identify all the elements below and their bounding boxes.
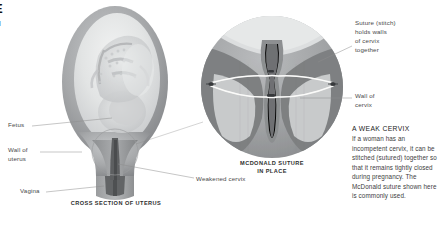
illustration-page: E M bbox=[0, 0, 443, 226]
label-wall-of-cervix: Wall of cervix bbox=[355, 92, 405, 110]
mcdonald-suture-illustration bbox=[201, 0, 343, 160]
side-note-a-weak-cervix: A WEAK CERVIX If a woman has an incompet… bbox=[352, 125, 441, 201]
side-note-heading: A WEAK CERVIX bbox=[352, 125, 441, 132]
caption-mcdonald-suture-in-place: MCDONALD SUTURE IN PLACE bbox=[222, 160, 322, 175]
side-note-body: If a woman has an incompetent cervix, it… bbox=[352, 134, 441, 201]
label-weakened-cervix: Weakened cervix bbox=[196, 175, 246, 184]
label-fetus: Fetus bbox=[8, 121, 24, 130]
caption-cross-section-of-uterus: CROSS SECTION OF UTERUS bbox=[58, 200, 174, 208]
label-suture-stitch: Suture (stitch) holds walls of cervix to… bbox=[355, 19, 435, 55]
label-wall-of-uterus: Wall of uterus bbox=[8, 146, 38, 164]
leader-vagina bbox=[46, 186, 104, 192]
label-vagina: Vagina bbox=[20, 187, 40, 196]
